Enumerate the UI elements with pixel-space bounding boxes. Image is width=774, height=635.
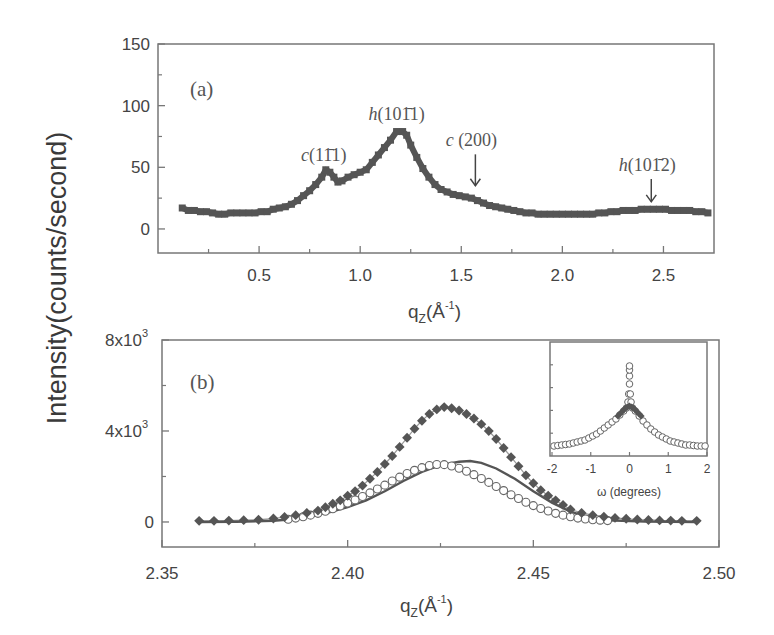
data-point-square — [252, 209, 259, 216]
data-point-square — [294, 197, 301, 204]
data-point-square — [209, 516, 219, 526]
data-point-circle — [359, 493, 367, 501]
data-point-circle — [559, 511, 567, 519]
data-point-square — [626, 207, 633, 214]
data-point-square — [387, 137, 394, 144]
data-point-square — [677, 516, 687, 526]
y-tick-label: 0 — [145, 513, 154, 532]
inset-data-point-circle — [626, 363, 633, 370]
data-point-circle — [470, 471, 478, 479]
data-point-circle — [514, 495, 522, 503]
data-point-square — [559, 211, 566, 218]
data-point-square — [607, 208, 614, 215]
x-tick-label: 2.40 — [331, 564, 364, 583]
data-point-square — [620, 207, 627, 214]
data-point-square — [662, 206, 669, 213]
data-point-circle — [433, 460, 441, 468]
panel-a-x-axis-title: qZ(Å-1) — [408, 299, 461, 326]
data-point-circle — [455, 464, 463, 472]
data-point-square — [447, 403, 457, 413]
inset-data-point-circle — [626, 381, 633, 388]
data-point-square — [197, 208, 204, 215]
data-point-square — [692, 208, 699, 215]
data-point-square — [431, 181, 438, 188]
data-point-square — [258, 208, 265, 215]
data-point-square — [239, 209, 246, 216]
data-point-square — [444, 188, 451, 195]
data-point-square — [656, 206, 663, 213]
data-point-square — [312, 181, 319, 188]
data-point-square — [185, 207, 192, 214]
data-point-square — [227, 209, 234, 216]
y-axis-title: Intensity(counts/second) — [42, 132, 72, 425]
y-tick-label: 50 — [131, 158, 150, 177]
x-tick-label: 2.45 — [517, 564, 550, 583]
data-point-square — [245, 209, 252, 216]
x-tick-label: 1.0 — [348, 266, 372, 285]
data-point-circle — [477, 475, 485, 483]
y-tick-label: 0 — [141, 220, 150, 239]
x-tick-label: 2.35 — [145, 564, 178, 583]
data-point-square — [439, 402, 449, 412]
data-point-square — [686, 207, 693, 214]
data-point-square — [191, 207, 198, 214]
data-point-square — [492, 203, 499, 210]
y-tick-label: 100 — [122, 97, 150, 116]
data-point-square — [282, 203, 289, 210]
data-point-square — [403, 132, 410, 139]
data-point-circle — [500, 487, 508, 495]
data-point-square — [264, 208, 271, 215]
data-point-square — [541, 211, 548, 218]
data-point-circle — [373, 485, 381, 493]
data-point-circle — [403, 470, 411, 478]
data-point-square — [419, 165, 426, 172]
inset-data-point-circle — [627, 391, 634, 398]
data-point-square — [698, 208, 705, 215]
data-point-circle — [418, 464, 426, 472]
data-point-square — [432, 404, 442, 414]
data-point-square — [504, 206, 511, 213]
peak-annotation: c (200) — [446, 130, 498, 151]
data-point-square — [221, 211, 228, 218]
data-point-square — [318, 174, 325, 181]
data-point-square — [558, 500, 568, 510]
y-tick-label: 8x103 — [105, 327, 148, 350]
data-point-square — [577, 211, 584, 218]
panel-a-ticks: 0.51.01.52.02.5050100150 — [122, 35, 676, 285]
data-point-square — [595, 209, 602, 216]
data-point-square — [666, 516, 676, 526]
data-point-square — [655, 515, 665, 525]
data-point-square — [613, 208, 620, 215]
data-point-square — [351, 171, 358, 178]
data-point-square — [456, 192, 463, 199]
figure: Intensity(counts/second) 0.51.01.52.02.5… — [0, 0, 774, 635]
data-point-square — [393, 128, 400, 135]
data-point-square — [469, 414, 479, 424]
data-point-square — [565, 211, 572, 218]
data-point-square — [680, 207, 687, 214]
data-point-circle — [485, 478, 493, 486]
panel-b-inset: -2-1012 ω (degrees) — [547, 342, 711, 499]
data-point-square — [547, 211, 554, 218]
data-point-square — [345, 174, 352, 181]
inset-x-axis-title: ω (degrees) — [597, 485, 661, 499]
panel-a-frame — [158, 44, 714, 253]
data-point-square — [450, 191, 457, 198]
data-point-square — [704, 209, 711, 216]
inset-x-tick-label: -1 — [585, 462, 596, 476]
data-point-square — [300, 192, 307, 199]
data-point-circle — [462, 467, 470, 475]
data-point-square — [288, 201, 295, 208]
data-point-square — [516, 208, 523, 215]
x-tick-label: 2.5 — [652, 266, 676, 285]
data-point-square — [209, 209, 216, 216]
data-point-square — [498, 204, 505, 211]
data-point-square — [369, 159, 376, 166]
data-point-square — [179, 204, 186, 211]
data-point-circle — [381, 481, 389, 489]
data-point-square — [510, 207, 517, 214]
peak-annotation: c(11̄1) — [301, 145, 347, 166]
data-point-square — [239, 515, 249, 525]
data-point-square — [674, 207, 681, 214]
data-point-square — [571, 211, 578, 218]
